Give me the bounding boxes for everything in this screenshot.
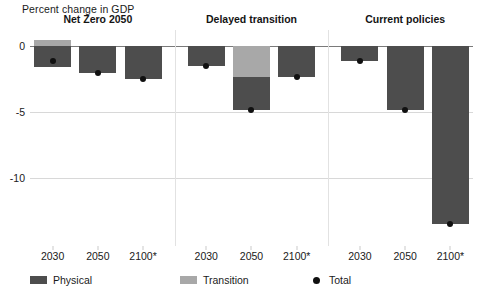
y-axis-tick-label: 0 bbox=[19, 40, 25, 52]
legend-swatch-icon bbox=[180, 276, 197, 284]
chart-panel: Current policies203020502100* bbox=[337, 30, 473, 246]
x-axis-tick-label: 2050 bbox=[86, 250, 109, 262]
panel-separator bbox=[328, 30, 329, 246]
x-axis-tick-label: 2030 bbox=[195, 250, 218, 262]
total-marker-dot bbox=[50, 58, 56, 64]
chart-panel: Delayed transition203020502100* bbox=[184, 30, 320, 246]
bar-segment-physical bbox=[432, 46, 469, 224]
total-marker-dot bbox=[402, 107, 408, 113]
bar-segment-physical bbox=[387, 46, 424, 110]
panel-title: Delayed transition bbox=[184, 13, 320, 25]
total-marker-dot bbox=[357, 58, 363, 64]
total-marker-dot bbox=[294, 74, 300, 80]
legend-item: Total bbox=[308, 274, 351, 286]
legend-item: Transition bbox=[180, 274, 249, 286]
legend-label: Transition bbox=[203, 274, 249, 286]
panel-title: Net Zero 2050 bbox=[30, 13, 166, 25]
x-axis-tick-label: 2050 bbox=[393, 250, 416, 262]
x-axis-tick-label: 2100* bbox=[437, 250, 464, 262]
legend-label: Total bbox=[329, 274, 351, 286]
chart-panel: Net Zero 2050203020502100* bbox=[30, 30, 166, 246]
legend-label: Physical bbox=[53, 274, 92, 286]
gdp-change-chart: Percent change in GDP 0-5-10Net Zero 205… bbox=[0, 0, 481, 299]
chart-legend: PhysicalTransitionTotal bbox=[30, 274, 473, 292]
total-marker-dot bbox=[248, 107, 254, 113]
bar-segment-transition bbox=[233, 46, 270, 78]
bar-segment-physical bbox=[79, 46, 116, 74]
plot-area: 0-5-10Net Zero 2050203020502100*Delayed … bbox=[30, 30, 473, 246]
x-axis-tick-label: 2050 bbox=[240, 250, 263, 262]
y-axis-tick-label: -5 bbox=[16, 106, 25, 118]
legend-item: Physical bbox=[30, 274, 92, 286]
total-marker-dot bbox=[140, 76, 146, 82]
x-axis-tick-label: 2100* bbox=[129, 250, 156, 262]
total-marker-dot bbox=[203, 63, 209, 69]
x-axis-tick-label: 2030 bbox=[41, 250, 64, 262]
y-axis-tick-label: -10 bbox=[10, 172, 25, 184]
legend-dot-icon bbox=[313, 277, 320, 284]
bar-segment-physical bbox=[125, 46, 162, 79]
panel-separator bbox=[175, 30, 176, 246]
total-marker-dot bbox=[95, 70, 101, 76]
total-marker-dot bbox=[447, 221, 453, 227]
panel-title: Current policies bbox=[337, 13, 473, 25]
bar-segment-physical bbox=[233, 77, 270, 109]
legend-swatch-icon bbox=[30, 276, 47, 284]
bar-segment-physical bbox=[278, 46, 315, 78]
x-axis-tick-label: 2030 bbox=[348, 250, 371, 262]
x-axis-tick-label: 2100* bbox=[283, 250, 310, 262]
